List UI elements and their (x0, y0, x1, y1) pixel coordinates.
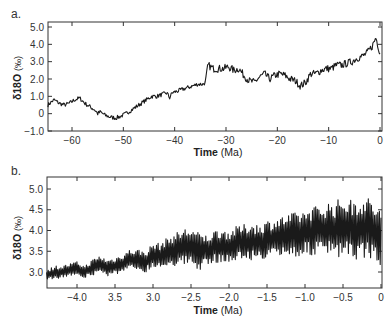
y-tick-label: 3.0 (29, 267, 43, 278)
y-tick-label: 4.5 (29, 204, 43, 215)
x-tick-label: −4.0 (67, 292, 87, 303)
panel-b-y-axis-title: δ18O(‰) (11, 216, 23, 260)
panel-a-data-line (48, 39, 380, 120)
x-tick-label: −0.5 (333, 292, 353, 303)
panel-a-y-axis-title: δ18O(‰) (11, 56, 23, 100)
x-tick-label: −2.0 (219, 292, 239, 303)
panel-a-xlabel-unit: (Ma) (221, 146, 243, 158)
panel-a-ylabel-unit: (‰) (13, 56, 23, 71)
y-tick-label: 0 (38, 108, 44, 119)
x-tick-label: −1.0 (295, 292, 315, 303)
x-tick-label: −40 (166, 135, 183, 146)
y-tick-label: 2.0 (30, 74, 44, 85)
x-tick-label: −1.5 (257, 292, 277, 303)
panel-b-data-line (47, 199, 381, 279)
panel-b-x-axis-title: Time(Ma) (194, 304, 243, 316)
x-tick-label: −50 (115, 135, 132, 146)
y-tick-label: 5.0 (29, 184, 43, 195)
x-tick-label: −10 (320, 135, 337, 146)
figure: a. −1.001.02.03.04.05.0 −60−50−40−30−20−… (0, 0, 392, 324)
panel-a-y-ticks: −1.001.02.03.04.05.0 (24, 22, 382, 137)
panel-a-ylabel: δ18O (11, 74, 23, 100)
panel-a-xlabel: Time (194, 146, 218, 158)
y-tick-label: 4.0 (29, 225, 43, 236)
panel-a: a. −1.001.02.03.04.05.0 −60−50−40−30−20−… (11, 7, 383, 158)
panel-b-xlabel: Time (194, 304, 218, 316)
x-tick-label: 0 (378, 292, 384, 303)
panel-b: b. 3.03.54.04.55.0 −4.03.53.0−2.5−2.0−1.… (11, 164, 384, 316)
x-tick-label: −60 (64, 135, 81, 146)
x-tick-label: 3.0 (146, 292, 160, 303)
panel-b-ylabel: δ18O (11, 234, 23, 260)
x-tick-label: −20 (269, 135, 286, 146)
panel-a-x-axis-title: Time(Ma) (194, 146, 243, 158)
y-tick-label: 4.0 (30, 39, 44, 50)
y-tick-label: 5.0 (30, 22, 44, 33)
x-tick-label: 3.5 (108, 292, 122, 303)
y-tick-label: −1.0 (24, 126, 44, 137)
panel-a-x-ticks: −60−50−40−30−20−100 (64, 22, 384, 146)
panel-b-label: b. (11, 164, 21, 178)
y-tick-label: 3.5 (29, 246, 43, 257)
x-tick-label: 0 (377, 135, 383, 146)
y-tick-label: 1.0 (30, 91, 44, 102)
panel-b-ylabel-unit: (‰) (13, 216, 23, 231)
panel-b-xlabel-unit: (Ma) (221, 304, 243, 316)
x-tick-label: −2.5 (181, 292, 201, 303)
x-tick-label: −30 (218, 135, 235, 146)
panel-a-label: a. (11, 7, 21, 21)
y-tick-label: 3.0 (30, 56, 44, 67)
